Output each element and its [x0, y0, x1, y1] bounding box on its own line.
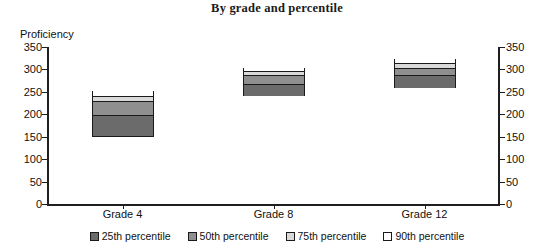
y-tick-label-left-300: 300 [8, 64, 42, 75]
legend-label: 25th percentile [102, 230, 171, 242]
bar-grade-8 [243, 68, 305, 96]
y-tick-label-left-100: 100 [8, 154, 42, 165]
y-axis-label: Proficiency [20, 28, 74, 40]
y-tick-label-right-250: 250 [506, 87, 540, 98]
legend-item-90th-percentile[interactable]: 90th percentile [383, 230, 464, 242]
y-tick-left-150 [42, 137, 47, 138]
y-tick-left-0 [42, 204, 47, 205]
plot-area: 050100150200250300350 050100150200250300… [47, 47, 500, 205]
legend-item-50th-percentile[interactable]: 50th percentile [188, 230, 269, 242]
bar-segment-50th-percentile [93, 102, 153, 115]
y-tick-left-50 [42, 182, 47, 183]
bar-grade-12 [394, 59, 456, 88]
y-tick-left-250 [42, 92, 47, 93]
bar-segment-75th-percentile [244, 72, 304, 76]
legend-swatch-icon [383, 232, 392, 241]
y-tick-left-300 [42, 69, 47, 70]
bar-segment-25th-percentile [395, 76, 455, 87]
y-tick-label-right-300: 300 [506, 64, 540, 75]
y-tick-right-150 [500, 137, 505, 138]
bar-segment-50th-percentile [244, 76, 304, 84]
chart-legend: 25th percentile50th percentile75th perce… [0, 230, 554, 242]
y-tick-label-right-0: 0 [506, 199, 540, 210]
bar-segment-90th-percentile [93, 90, 153, 97]
chart-title: By grade and percentile [0, 1, 554, 16]
y-tick-left-100 [42, 159, 47, 160]
legend-item-75th-percentile[interactable]: 75th percentile [286, 230, 367, 242]
y-tick-right-200 [500, 114, 505, 115]
legend-label: 75th percentile [298, 230, 367, 242]
y-tick-label-right-100: 100 [506, 154, 540, 165]
legend-label: 50th percentile [200, 230, 269, 242]
x-axis-label-grade-12: Grade 12 [380, 208, 470, 220]
x-axis-label-grade-4: Grade 4 [78, 208, 168, 220]
x-axis-label-grade-8: Grade 8 [229, 208, 319, 220]
legend-label: 90th percentile [395, 230, 464, 242]
y-tick-right-300 [500, 69, 505, 70]
legend-item-25th-percentile[interactable]: 25th percentile [90, 230, 171, 242]
y-tick-right-50 [500, 182, 505, 183]
y-tick-left-200 [42, 114, 47, 115]
y-tick-left-350 [42, 47, 47, 48]
bar-segment-75th-percentile [395, 64, 455, 68]
bar-grade-4 [92, 91, 154, 137]
y-axis-left-line [47, 47, 49, 206]
y-tick-label-left-150: 150 [8, 132, 42, 143]
bar-segment-25th-percentile [93, 116, 153, 136]
y-tick-label-left-0: 0 [8, 199, 42, 210]
y-tick-label-left-250: 250 [8, 87, 42, 98]
bar-segment-25th-percentile [244, 85, 304, 96]
bar-segment-90th-percentile [244, 67, 304, 72]
y-tick-label-right-350: 350 [506, 42, 540, 53]
y-tick-right-100 [500, 159, 505, 160]
y-tick-label-right-200: 200 [506, 109, 540, 120]
y-tick-right-0 [500, 204, 505, 205]
y-tick-label-left-200: 200 [8, 109, 42, 120]
bar-segment-90th-percentile [395, 59, 455, 65]
y-tick-label-right-150: 150 [506, 132, 540, 143]
legend-swatch-icon [188, 232, 197, 241]
bar-segment-75th-percentile [93, 97, 153, 102]
y-tick-right-350 [500, 47, 505, 48]
legend-swatch-icon [286, 232, 295, 241]
chart-canvas: By grade and percentile Proficiency 0501… [0, 0, 554, 250]
bar-segment-50th-percentile [395, 69, 455, 77]
y-tick-label-right-50: 50 [506, 177, 540, 188]
y-tick-label-left-350: 350 [8, 42, 42, 53]
y-tick-right-250 [500, 92, 505, 93]
legend-swatch-icon [90, 232, 99, 241]
y-tick-label-left-50: 50 [8, 177, 42, 188]
